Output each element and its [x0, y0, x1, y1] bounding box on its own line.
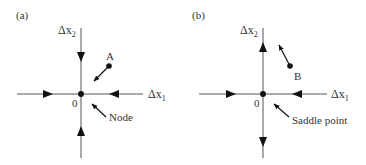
- y-axis-label: Δx2: [240, 23, 258, 39]
- trajectory-b: [279, 45, 290, 66]
- point-a-label: A: [106, 50, 114, 62]
- node-pointer-icon: [92, 104, 106, 117]
- x-axis-label: Δx1: [331, 87, 349, 103]
- phase-portrait-diagram: (a) 0 Δx2 Δx1 A Node (b): [0, 0, 366, 165]
- x-axis-label: Δx1: [148, 87, 166, 103]
- origin-dot: [260, 91, 266, 97]
- arrow-left-icon: [292, 90, 302, 98]
- arrow-down-icon: [259, 137, 267, 147]
- arrow-up-icon: [77, 126, 85, 136]
- point-a-dot: [106, 63, 112, 69]
- origin-label: 0: [254, 97, 260, 109]
- node-annotation: Node: [109, 111, 133, 123]
- panel-b-label: (b): [192, 9, 205, 22]
- origin-dot: [78, 91, 84, 97]
- point-b-dot: [287, 63, 293, 69]
- arrow-down-icon: [77, 52, 85, 62]
- panel-a: (a) 0 Δx2 Δx1 A Node: [16, 9, 166, 158]
- arrow-right-icon: [43, 90, 53, 98]
- panel-b: (b) 0 Δx2 Δx1 B Saddle point: [192, 9, 349, 158]
- arrow-left-icon: [109, 90, 119, 98]
- trajectory-a: [94, 66, 109, 81]
- y-axis-label: Δx2: [58, 23, 76, 39]
- saddle-pointer-icon: [274, 104, 289, 117]
- saddle-annotation: Saddle point: [292, 114, 347, 126]
- origin-label: 0: [72, 97, 78, 109]
- arrow-up-icon: [259, 42, 267, 52]
- arrow-right-icon: [226, 90, 236, 98]
- panel-a-label: (a): [16, 9, 29, 22]
- point-b-label: B: [294, 70, 301, 82]
